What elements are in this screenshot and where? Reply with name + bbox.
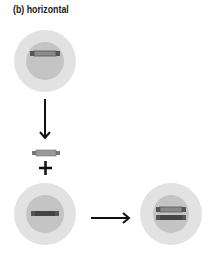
free-chromosome-icon — [32, 150, 60, 156]
down-arrow-icon — [40, 99, 50, 138]
plus-icon — [39, 161, 52, 175]
right-arrow-icon — [91, 213, 129, 223]
bottom-right-cell — [140, 183, 202, 245]
top-cell — [14, 30, 76, 92]
chromosome-icon-top — [156, 207, 186, 212]
chromosome-icon — [30, 51, 60, 56]
bottom-left-cell — [14, 183, 76, 245]
chromosome-icon — [31, 211, 59, 216]
chromosome-icon-bottom — [156, 215, 186, 220]
horizontal-transfer-diagram — [0, 0, 210, 258]
